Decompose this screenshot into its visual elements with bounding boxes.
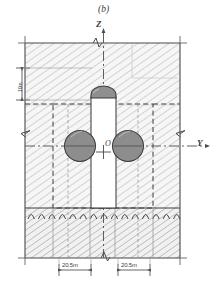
dimension-label-offset-left: 20.5m (62, 262, 78, 268)
z-axis-label: Z (96, 20, 102, 29)
tunnel-bore-left (65, 131, 96, 162)
dimension-label-depth-left: 10m (18, 83, 23, 93)
origin-label: O (105, 140, 111, 148)
y-axis-label: Y (197, 139, 203, 148)
dimension-label-offset-right: 20.5m (121, 262, 137, 268)
engineering-section-figure: (b) Z Y O 10m 20.5m 20.5m (0, 0, 222, 284)
figure-canvas (0, 0, 222, 284)
tunnel-bore-right (113, 131, 144, 162)
panel-label: (b) (98, 5, 109, 15)
